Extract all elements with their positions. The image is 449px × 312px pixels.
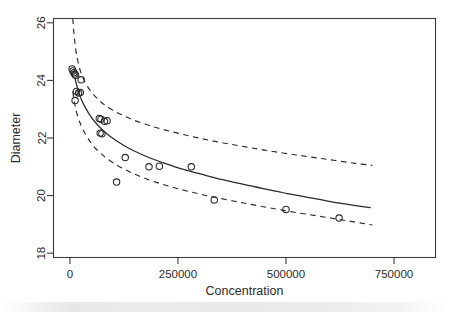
x-axis-tick-label: 750000 (375, 268, 413, 280)
scatter-plot-svg: 02500005000007500001820222426Concentrati… (0, 0, 449, 312)
y-axis-tick-label: 18 (36, 247, 48, 260)
x-axis-tick-label: 0 (67, 268, 73, 280)
y-axis-tick-label: 22 (36, 132, 48, 145)
chart-figure: 02500005000007500001820222426Concentrati… (0, 0, 449, 312)
y-axis-tick-label: 24 (36, 73, 48, 86)
y-axis-tick-label: 26 (36, 16, 48, 29)
y-axis-tick-label: 20 (36, 189, 48, 202)
x-axis-tick-label: 500000 (267, 268, 305, 280)
plot-background (0, 0, 449, 312)
y-axis-title: Diameter (9, 113, 23, 164)
x-axis-title: Concentration (206, 284, 284, 298)
x-axis-tick-label: 250000 (159, 268, 197, 280)
